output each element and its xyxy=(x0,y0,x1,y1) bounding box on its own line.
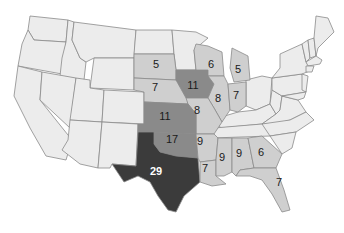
label-ia: 11 xyxy=(187,79,198,91)
label-tx: 29 xyxy=(150,165,162,177)
state-wy xyxy=(90,58,134,90)
label-mo: 8 xyxy=(194,104,200,116)
label-al: 9 xyxy=(236,147,242,159)
label-in: 7 xyxy=(233,89,239,101)
us-map: 5 7 11 6 5 8 7 8 11 17 29 9 7 9 9 6 7 xyxy=(0,0,344,233)
label-ms: 9 xyxy=(219,151,225,163)
label-sd: 5 xyxy=(153,58,159,70)
state-fl xyxy=(236,168,290,212)
state-wa xyxy=(28,16,68,42)
state-nm xyxy=(98,122,138,168)
state-me xyxy=(314,16,334,56)
state-nd xyxy=(134,30,174,54)
label-ar: 9 xyxy=(197,135,203,147)
state-ct xyxy=(306,66,314,72)
label-mi: 5 xyxy=(235,63,241,75)
state-az xyxy=(62,120,102,168)
label-fl: 7 xyxy=(276,176,282,188)
label-ok: 17 xyxy=(166,133,178,145)
label-ga: 6 xyxy=(258,146,264,158)
state-nj xyxy=(302,74,308,92)
label-ks: 11 xyxy=(159,110,170,122)
label-wi: 6 xyxy=(208,58,214,70)
label-la: 7 xyxy=(202,162,208,174)
label-ne: 7 xyxy=(152,81,158,93)
label-il: 8 xyxy=(215,92,221,104)
state-co xyxy=(102,90,144,124)
state-mt xyxy=(72,22,136,62)
